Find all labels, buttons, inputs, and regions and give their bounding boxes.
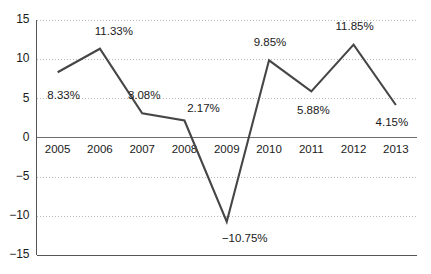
- x-axis-tick-label: 2009: [214, 143, 240, 155]
- data-point-label: 4.15%: [376, 116, 409, 128]
- data-point-label: 9.85%: [254, 36, 287, 48]
- data-point-label: 5.88%: [297, 104, 330, 116]
- data-point-label: 11.33%: [95, 25, 133, 37]
- x-axis-tick-labels: 200520062007200820092010201120122013: [45, 143, 409, 155]
- data-point-label: 2.17%: [187, 102, 220, 114]
- y-axis-tick-label: 0: [23, 130, 30, 144]
- x-axis-tick-label: 2007: [129, 143, 155, 155]
- data-point-label: 8.33%: [47, 89, 80, 101]
- y-axis-tick-label: 10: [16, 51, 30, 65]
- x-axis-tick-label: 2006: [87, 143, 113, 155]
- x-axis-tick-label: 2011: [299, 143, 324, 155]
- y-axis-tick-label: 15: [16, 12, 30, 26]
- x-axis-tick-label: 2005: [45, 143, 71, 155]
- y-axis-tick-label: 5: [23, 91, 30, 105]
- x-axis-tick-label: 2010: [256, 143, 282, 155]
- y-axis-tick-label: −5: [16, 169, 30, 183]
- data-point-label: 11.85%: [336, 20, 374, 32]
- chart-canvas: 151050−5−10−15 2005200620072008200920102…: [0, 0, 431, 274]
- data-point-label: 3.08%: [128, 89, 161, 101]
- data-point-label: −10.75%: [222, 232, 268, 244]
- x-axis-tick-label: 2012: [341, 143, 367, 155]
- y-axis-tick-label: −10: [9, 208, 30, 222]
- x-axis-tick-label: 2013: [383, 143, 409, 155]
- line-chart-figure: 151050−5−10−15 2005200620072008200920102…: [0, 0, 431, 274]
- y-axis-tick-label: −15: [9, 247, 30, 261]
